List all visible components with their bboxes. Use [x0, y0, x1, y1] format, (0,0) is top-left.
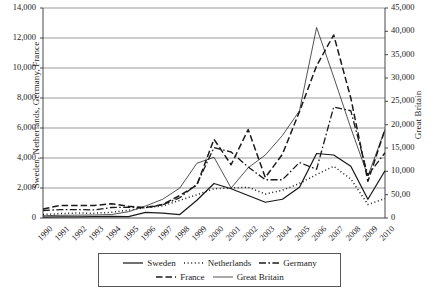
legend-swatch-dashdot	[258, 259, 280, 267]
line-chart: Sweden, Netherlands, Germany, France Gre…	[0, 0, 437, 291]
legend-swatch-dotted	[183, 259, 205, 267]
legend-swatch-solid	[122, 259, 144, 267]
legend-swatch-thin-solid	[212, 273, 234, 281]
plot-frame	[40, 8, 388, 218]
legend-item-great-britain[interactable]: Great Britain	[212, 272, 284, 282]
series-line-netherlands	[43, 166, 385, 214]
legend-item-sweden[interactable]: Sweden	[122, 258, 176, 268]
plot-area	[0, 0, 437, 291]
chart-legend: SwedenNetherlandsGermany FranceGreat Bri…	[98, 253, 341, 287]
legend-swatch-dashed	[155, 273, 177, 281]
legend-item-netherlands[interactable]: Netherlands	[183, 258, 251, 268]
data-series-layer	[43, 28, 385, 218]
legend-row: SwedenNetherlandsGermany	[122, 257, 316, 270]
legend-label: Great Britain	[237, 272, 284, 282]
legend-item-germany[interactable]: Germany	[258, 258, 317, 268]
legend-row: FranceGreat Britain	[155, 271, 284, 284]
series-line-sweden	[43, 154, 385, 218]
legend-label: France	[180, 272, 205, 282]
legend-item-france[interactable]: France	[155, 272, 205, 282]
legend-label: Germany	[283, 258, 317, 268]
legend-label: Netherlands	[208, 258, 251, 268]
legend-label: Sweden	[147, 258, 176, 268]
series-line-germany	[43, 107, 385, 211]
series-line-great-britain	[43, 28, 385, 216]
